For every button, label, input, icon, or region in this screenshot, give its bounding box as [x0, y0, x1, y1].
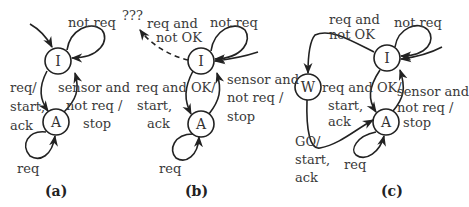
self-I-label-c: not req: [394, 15, 442, 31]
state-I-a-label: I: [45, 48, 71, 74]
A-to-I-label-b-1: sensor and: [227, 72, 299, 88]
I-to-A-label-c-2: start,: [328, 98, 363, 114]
I-to-A-label-c-3: ack: [328, 114, 351, 130]
caption-a: (a): [45, 183, 67, 199]
I-to-A-label-b-3: ack: [147, 116, 170, 132]
state-A-b-label: A: [188, 111, 214, 137]
I-to-W-label-1: req and: [329, 12, 380, 28]
I-to-A-label-a-3: ack: [10, 118, 33, 134]
self-A-label-a: req: [17, 161, 39, 177]
self-I-label-a: not req: [68, 15, 116, 31]
W-to-A-label-2: start,: [295, 152, 330, 168]
A-to-I-label-a-1: sensor and: [58, 80, 130, 96]
state-I-c-label: I: [374, 45, 400, 71]
I-to-A-label-a-1: req/: [10, 80, 37, 96]
W-to-A-label-1: GO/: [295, 134, 320, 150]
I-to-A-label-c-1: req and OK/: [322, 80, 402, 96]
A-to-I-label-c-2: not req /: [397, 100, 453, 116]
state-I-b-label: I: [188, 48, 214, 74]
state-A-c-label: A: [373, 109, 399, 135]
W-to-A-label-3: ack: [295, 170, 318, 186]
A-to-I-label-a-3: stop: [83, 116, 111, 132]
unknown-state-label: ???: [122, 8, 143, 24]
A-to-I-label-b-3: stop: [227, 109, 255, 125]
caption-c: (c): [381, 183, 403, 199]
self-A-label-c: req: [344, 157, 366, 173]
A-to-I-label-c-1: sensor and: [397, 84, 469, 100]
self-I-label-b: not req: [210, 15, 258, 31]
I-to-A-label-b-2: start,: [137, 98, 172, 114]
self-A-label-b: req: [159, 161, 181, 177]
A-to-I-label-a-2: not req /: [66, 98, 122, 114]
I-to-unknown-label-2: not OK: [156, 30, 202, 46]
I-to-A-label-a-2: start,: [10, 99, 45, 115]
I-to-A-label-b-1: req and OK/: [136, 80, 216, 96]
caption-b: (b): [185, 183, 208, 199]
I-to-W-label-2: not OK: [329, 27, 375, 43]
A-to-I-label-b-2: not req /: [227, 90, 283, 106]
state-W-c-label: W: [295, 74, 321, 100]
A-to-I-label-c-3: stop: [403, 115, 431, 131]
